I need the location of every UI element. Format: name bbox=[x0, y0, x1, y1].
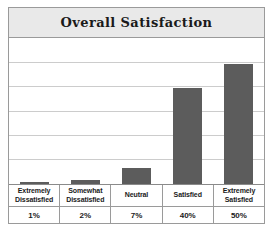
category-label-extremely-satisfied: Extremely Satisfied bbox=[214, 185, 264, 206]
bar-satisfied[interactable] bbox=[173, 88, 202, 185]
value-satisfied: 40% bbox=[163, 207, 214, 223]
value-extremely-satisfied: 50% bbox=[214, 207, 264, 223]
value-label-row: 1% 2% 7% 40% 50% bbox=[9, 207, 264, 223]
bar-slot-somewhat-dissatisfied bbox=[60, 38, 111, 185]
plot-area bbox=[9, 38, 264, 185]
bar-slot-satisfied bbox=[162, 38, 213, 185]
category-label-neutral: Neutral bbox=[111, 185, 162, 206]
chart-container: Overall Satisfaction bbox=[8, 7, 265, 224]
bar-slot-neutral bbox=[111, 38, 162, 185]
category-label-satisfied: Satisfied bbox=[163, 185, 214, 206]
category-label-line1: Satisfied bbox=[174, 191, 202, 200]
bar-slot-extremely-dissatisfied bbox=[9, 38, 60, 185]
bar-extremely-satisfied[interactable] bbox=[224, 64, 253, 185]
category-label-line1: Extremely bbox=[18, 187, 51, 194]
page-title: Overall Satisfaction bbox=[61, 15, 213, 30]
category-label-row: Extremely Dissatisfied Somewhat Dissatis… bbox=[9, 185, 264, 207]
category-label-somewhat-dissatisfied: Somewhat Dissatisfied bbox=[60, 185, 111, 206]
category-label-line2: Dissatisfied bbox=[15, 196, 53, 203]
value-somewhat-dissatisfied: 2% bbox=[60, 207, 111, 223]
data-table: Extremely Dissatisfied Somewhat Dissatis… bbox=[9, 185, 264, 223]
value-neutral: 7% bbox=[111, 207, 162, 223]
value-extremely-dissatisfied: 1% bbox=[9, 207, 60, 223]
category-label-line2: Dissatisfied bbox=[66, 196, 104, 203]
category-label-line1: Neutral bbox=[125, 191, 148, 200]
category-label-extremely-dissatisfied: Extremely Dissatisfied bbox=[9, 185, 60, 206]
bar-slot-extremely-satisfied bbox=[213, 38, 264, 185]
category-label-line1: Extremely bbox=[223, 187, 256, 194]
chart-title-banner: Overall Satisfaction bbox=[9, 8, 264, 38]
category-label-line2: Satisfied bbox=[225, 196, 253, 203]
category-label-line1: Somewhat bbox=[68, 187, 102, 194]
bar-neutral[interactable] bbox=[122, 168, 151, 185]
bars-layer bbox=[9, 38, 264, 185]
